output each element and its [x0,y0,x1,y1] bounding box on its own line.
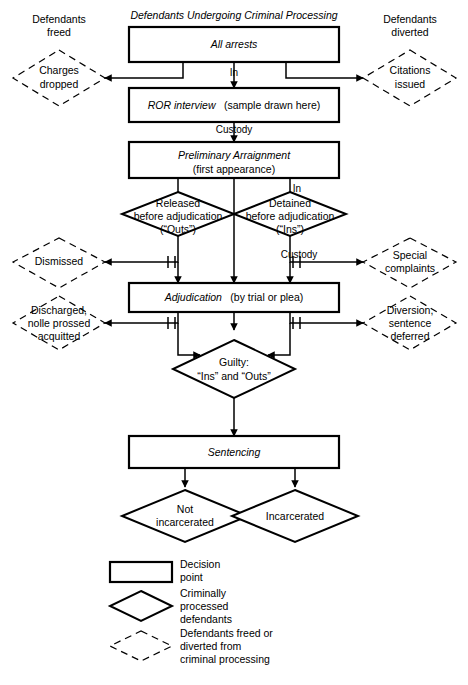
legend-swatch-freed-diverted [110,631,172,661]
node-adjudication-label-italic: Adjudication [164,291,222,303]
node-discharged-line3: acquitted [38,330,81,342]
node-special-complaints-line1: Special [393,249,427,261]
node-sentencing-label: Sentencing [208,446,261,458]
flowchart-diagram: Defendants Undergoing Criminal Processin… [0,0,468,685]
node-released-line3: (“Outs”) [160,223,196,235]
edge-label-custody-after-detained: Custody [281,249,318,260]
node-released-line2: before adjudication [134,210,223,222]
node-preliminary-arraignment-label-plain: (first appearance) [193,163,275,175]
node-all-arrests-label: All arrests [210,38,258,50]
legend-item-0-line2: point [180,571,203,583]
node-dismissed-line1: Dismissed [35,255,84,267]
node-diversion-line2: sentence [389,317,432,329]
node-preliminary-arraignment-label-italic: Preliminary Arraignment [178,149,291,161]
node-guilty-line2: “Ins” and “Outs” [197,370,271,382]
legend-item-1-line3: defendants [180,613,232,625]
legend-item-1-line2: processed [180,600,229,612]
node-charges-dropped-line1: Charges [39,64,79,76]
node-detained-line1: Detained [269,197,311,209]
node-not-incarcerated-line2: incarcerated [156,516,214,528]
node-adjudication-label-plain: (by trial or plea) [230,291,303,303]
legend-item-2-line1: Defendants freed or [180,627,273,639]
right-caption-line2: diverted [391,26,429,38]
node-diversion-line3: deferred [390,330,429,342]
edge-left-into-guilty [178,323,200,355]
edge-adjudication-to-diversion [290,312,348,323]
edge-label-in-after-arrest: In [230,67,238,78]
node-ror-interview-label-plain: (sample drawn here) [224,99,320,111]
edge-released-to-dismissed [120,232,178,262]
edge-label-custody-after-ror: Custody [216,124,253,135]
node-released-line1: Released [156,197,201,209]
flowchart-canvas: Defendants Undergoing Criminal Processin… [0,0,468,685]
legend-item-2-line2: diverted from [180,640,242,652]
left-caption-line2: freed [47,26,71,38]
node-special-complaints-line2: complaints [385,262,435,274]
legend-swatch-criminally-processed [110,591,172,621]
edge-right-into-guilty [268,323,290,355]
edge-arrests-to-charges-dropped [120,62,183,78]
edge-adjudication-to-discharged [120,312,178,323]
node-diversion-line1: Diversion, [387,304,434,316]
legend-item-0-line1: Decision [180,558,220,570]
node-ror-interview-label-italic: ROR interview [148,99,217,111]
node-detained-line2: before adjudication [246,210,335,222]
edge-arrests-to-citations [286,62,348,78]
node-detained-line3: (“Ins”) [276,223,304,235]
diagram-title: Defendants Undergoing Criminal Processin… [130,9,337,21]
node-discharged-line2: nolle prossed [28,317,91,329]
right-caption-line1: Defendants [383,13,437,25]
legend-swatch-decision-point [110,562,172,582]
node-incarcerated-line1: Incarcerated [266,510,325,522]
node-charges-dropped-line2: dropped [40,78,79,90]
edge-label-in-after-arraignment: In [293,183,301,194]
left-caption-line1: Defendants [32,13,86,25]
legend-item-1-line1: Criminally [180,587,227,599]
node-citations-issued-line2: issued [395,78,426,90]
node-citations-issued-line1: Citations [390,64,431,76]
legend-item-2-line3: criminal processing [180,653,270,665]
node-not-incarcerated-line1: Not [177,503,193,515]
node-discharged-line1: Discharged, [31,304,87,316]
node-guilty-line1: Guilty: [219,356,249,368]
